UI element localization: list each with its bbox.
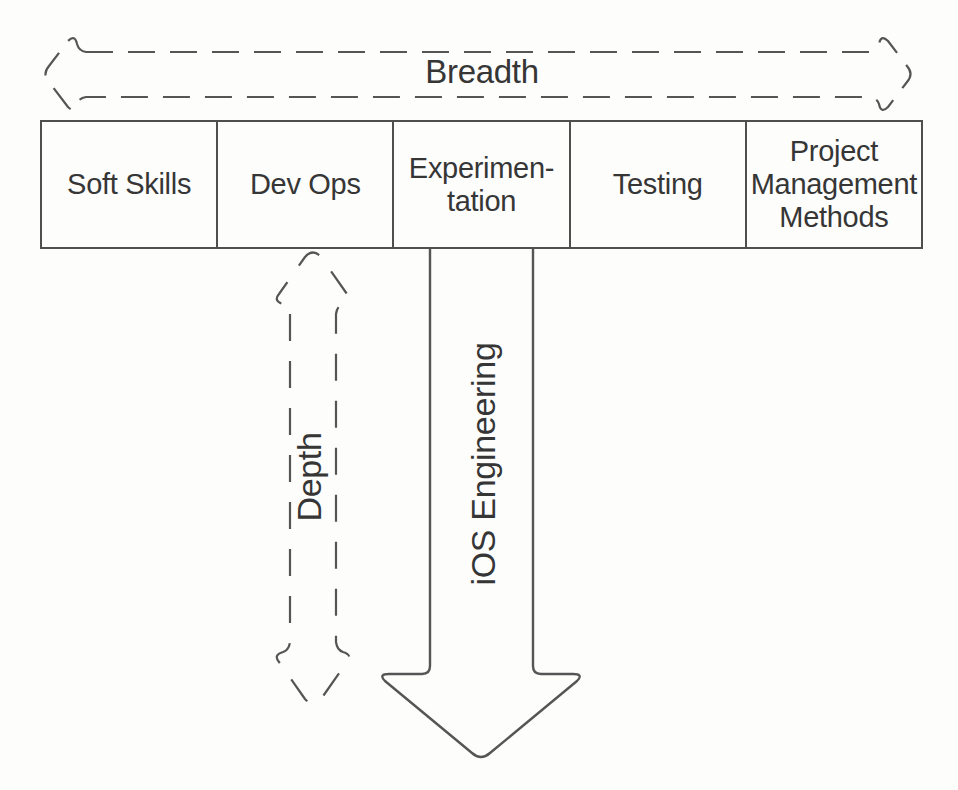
- skill-box-label: Testing: [613, 168, 703, 201]
- skills-row: Soft Skills Dev Ops Experimen- tation Te…: [40, 120, 923, 249]
- skill-box-label: Soft Skills: [67, 168, 191, 201]
- t-shaped-skills-diagram: Soft Skills Dev Ops Experimen- tation Te…: [0, 0, 958, 790]
- skill-box-label: Project Management Methods: [749, 135, 919, 233]
- skill-box-dev-ops: Dev Ops: [216, 120, 394, 249]
- depth-label: Depth: [290, 432, 329, 521]
- breadth-label: Breadth: [425, 53, 538, 91]
- skill-box-soft-skills: Soft Skills: [40, 120, 218, 249]
- skill-box-label: Dev Ops: [250, 168, 361, 201]
- ios-engineering-label: iOS Engineering: [464, 342, 503, 585]
- skill-box-experimentation: Experimen- tation: [392, 120, 570, 249]
- skill-box-testing: Testing: [569, 120, 747, 249]
- skill-box-label: Experimen- tation: [409, 152, 554, 218]
- skill-box-project-management-methods: Project Management Methods: [745, 120, 923, 249]
